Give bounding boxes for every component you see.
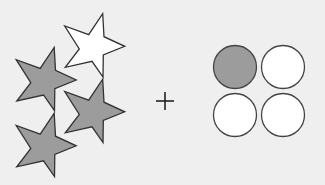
circle-top-right (262, 46, 305, 89)
circle-bottom-right (262, 94, 305, 137)
circle-bottom-left (214, 94, 257, 137)
puzzle-figure: + (0, 0, 325, 185)
circle-top-left (214, 46, 257, 89)
